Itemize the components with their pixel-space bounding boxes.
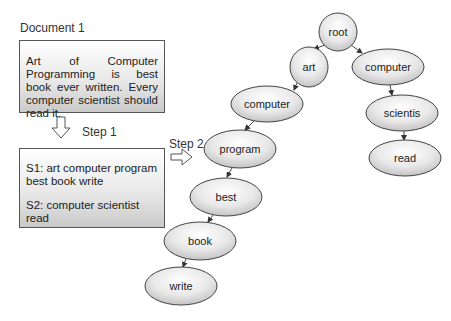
step2-arrow-icon	[171, 149, 192, 165]
svg-text:best: best	[216, 191, 237, 203]
svg-text:program: program	[220, 143, 261, 155]
svg-text:art: art	[303, 61, 316, 73]
tree-node-book: book	[164, 222, 236, 260]
svg-text:computer: computer	[244, 98, 290, 110]
tree-node-art: art	[290, 47, 328, 87]
tree-node-read: read	[369, 140, 441, 176]
step1-arrow-icon	[52, 117, 70, 138]
tree-node-computer-right: computer	[352, 49, 424, 85]
svg-text:write: write	[168, 280, 192, 292]
svg-text:scientis: scientis	[384, 107, 421, 119]
tree-node-scientis: scientis	[366, 95, 438, 131]
tree-node-root: root	[319, 13, 357, 51]
svg-text:computer: computer	[365, 61, 411, 73]
tree-node-computer-left: computer	[231, 86, 303, 122]
tree-node-program: program	[204, 130, 276, 168]
svg-text:book: book	[188, 235, 212, 247]
tree-node-best: best	[190, 178, 262, 216]
svg-text:read: read	[394, 152, 416, 164]
tree-diagram: root art computer computer scientis prog…	[0, 0, 451, 321]
svg-text:root: root	[329, 26, 348, 38]
tree-node-write: write	[145, 267, 217, 305]
